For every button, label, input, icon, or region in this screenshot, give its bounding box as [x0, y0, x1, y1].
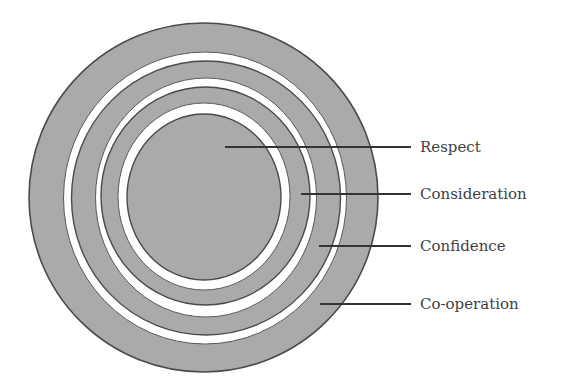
label-respect: Respect	[420, 140, 481, 155]
label-confidence: Confidence	[420, 239, 506, 254]
label-consideration: Consideration	[420, 187, 527, 202]
center-circle-respect	[127, 114, 281, 280]
label-co-operation: Co-operation	[420, 297, 519, 312]
